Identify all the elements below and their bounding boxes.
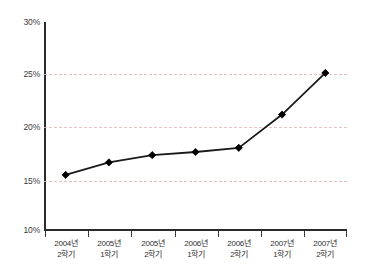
data-point-marker bbox=[192, 148, 199, 155]
x-axis-labels: 2004년 2학기 2005년 1학기 2005년 2학기 2006년 1학기 … bbox=[44, 239, 347, 273]
x-axis-label-line1: 2007년 bbox=[270, 239, 293, 248]
series-line bbox=[66, 73, 326, 175]
data-point-marker bbox=[105, 159, 112, 166]
data-series-layer bbox=[0, 0, 366, 275]
x-axis-label-line1: 2007년 bbox=[313, 239, 336, 248]
data-point-marker bbox=[62, 171, 69, 178]
series-markers bbox=[62, 69, 329, 178]
x-axis-label-line1: 2006년 bbox=[227, 239, 250, 248]
x-axis-label-line1: 2005년 bbox=[141, 239, 164, 248]
chart-container: 30% 25% 20% 15% 10% 2004년 2학기 2005년 bbox=[0, 0, 366, 275]
x-axis-label-line1: 2004년 bbox=[54, 239, 77, 248]
x-axis-label-line1: 2005년 bbox=[97, 239, 120, 248]
x-axis-label-line2: 2학기 bbox=[297, 250, 353, 261]
data-point-marker bbox=[149, 152, 156, 159]
x-axis-label-line1: 2006년 bbox=[184, 239, 207, 248]
x-axis-label: 2007년 2학기 bbox=[297, 239, 353, 260]
